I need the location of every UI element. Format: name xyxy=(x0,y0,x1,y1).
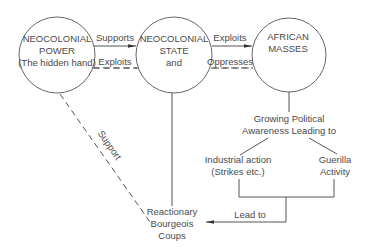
masses-label-line2: MASSES xyxy=(268,43,308,54)
state-label-line1: NEOCOLONIAL xyxy=(140,33,209,44)
supports-label: Supports xyxy=(96,32,134,43)
coups-label-line3: Coups xyxy=(158,230,186,241)
guerilla-label-line2: Activity xyxy=(320,166,350,177)
exploits-label-2: Exploits xyxy=(213,32,247,43)
support-label: Support xyxy=(96,128,124,162)
african-masses-circle xyxy=(252,18,326,92)
power-label-line3: (The hidden hand) xyxy=(18,57,96,68)
outcomes-bracket xyxy=(239,179,334,197)
awareness-to-industrial-line xyxy=(240,138,268,155)
state-label-line3: and xyxy=(166,57,182,68)
exploits-label-1: Exploits xyxy=(98,56,132,67)
state-label-line2: STATE xyxy=(159,45,188,56)
support-dashed-line xyxy=(60,94,150,222)
power-label-line1: NEOCOLONIAL xyxy=(23,33,92,44)
coups-label-line2: Bourgeois xyxy=(151,218,194,229)
diagram-canvas: NEOCOLONIAL POWER (The hidden hand) NEOC… xyxy=(0,0,369,247)
awareness-label-line2: Awareness Leading to xyxy=(242,125,336,136)
masses-label-line1: AFRICAN xyxy=(267,31,309,42)
power-label-line2: POWER xyxy=(39,45,75,56)
coups-label-line1: Reactionary xyxy=(147,206,198,217)
oppresses-label: Oppresses xyxy=(207,56,253,67)
lead-to-label: Lead to xyxy=(234,209,266,220)
guerilla-label-line1: Guerilla xyxy=(319,154,352,165)
industrial-label-line1: Industrial action xyxy=(205,154,272,165)
industrial-label-line2: (Strikes etc.) xyxy=(211,166,264,177)
awareness-label-line1: Growing Political xyxy=(254,113,325,124)
awareness-to-guerilla-line xyxy=(309,138,337,154)
